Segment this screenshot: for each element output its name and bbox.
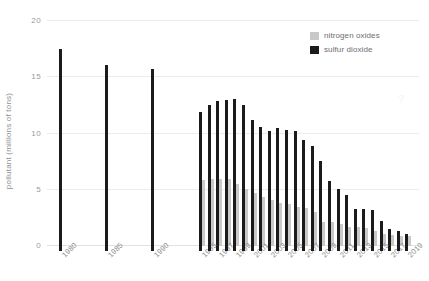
y-tick-label: 5 bbox=[36, 184, 41, 193]
bar-nitrogen-oxides[interactable] bbox=[219, 179, 222, 247]
bar-nitrogen-oxides[interactable] bbox=[374, 231, 377, 246]
bar-nitrogen-oxides[interactable] bbox=[236, 184, 239, 246]
x-tick-mark bbox=[294, 246, 297, 251]
bar-nitrogen-oxides[interactable] bbox=[245, 189, 248, 246]
bar-nitrogen-oxides[interactable] bbox=[202, 180, 205, 246]
bar-sulfur-dioxide[interactable] bbox=[151, 69, 154, 246]
legend: nitrogen oxides sulfur dioxide bbox=[310, 30, 380, 58]
x-tick-mark bbox=[242, 246, 245, 251]
bar-nitrogen-oxides[interactable] bbox=[305, 208, 308, 246]
pollutant-bar-chart: ? pollutant (millions of tons) 05101520 … bbox=[0, 0, 429, 281]
legend-item-sulfur-dioxide[interactable]: sulfur dioxide bbox=[310, 44, 380, 56]
y-tick-label: 20 bbox=[31, 16, 41, 25]
x-tick-mark bbox=[225, 246, 228, 251]
x-tick-mark bbox=[208, 246, 211, 251]
bar-nitrogen-oxides[interactable] bbox=[288, 204, 291, 246]
bar-nitrogen-oxides[interactable] bbox=[211, 179, 214, 247]
x-tick-mark bbox=[276, 246, 279, 251]
y-tick-label: 15 bbox=[31, 72, 41, 81]
bar-nitrogen-oxides[interactable] bbox=[408, 236, 411, 246]
x-tick-mark bbox=[259, 246, 262, 251]
legend-item-nitrogen-oxides[interactable]: nitrogen oxides bbox=[310, 30, 380, 42]
bar-nitrogen-oxides[interactable] bbox=[271, 200, 274, 246]
y-tick-label: 10 bbox=[31, 128, 41, 137]
x-tick-mark bbox=[362, 246, 365, 251]
x-axis: 1980198519901995199719992001200320052007… bbox=[47, 246, 419, 281]
bar-nitrogen-oxides[interactable] bbox=[391, 235, 394, 246]
legend-swatch-icon bbox=[310, 32, 319, 40]
bar-nitrogen-oxides[interactable] bbox=[254, 193, 257, 246]
bar-nitrogen-oxides[interactable] bbox=[357, 227, 360, 246]
bar-sulfur-dioxide[interactable] bbox=[105, 65, 108, 246]
y-axis-label: pollutant (millions of tons) bbox=[4, 92, 13, 188]
bar-nitrogen-oxides[interactable] bbox=[322, 222, 325, 246]
bar-nitrogen-oxides[interactable] bbox=[340, 224, 343, 247]
bar-nitrogen-oxides[interactable] bbox=[262, 197, 265, 247]
x-tick-mark bbox=[328, 246, 331, 251]
x-tick-mark bbox=[345, 246, 348, 251]
legend-label: sulfur dioxide bbox=[324, 44, 373, 56]
bar-nitrogen-oxides[interactable] bbox=[228, 179, 231, 247]
legend-label: nitrogen oxides bbox=[324, 30, 380, 42]
x-tick-mark bbox=[380, 246, 383, 251]
legend-swatch-icon bbox=[310, 46, 319, 54]
x-tick-mark bbox=[311, 246, 314, 251]
y-tick-label: 0 bbox=[36, 241, 41, 250]
bar-sulfur-dioxide[interactable] bbox=[59, 49, 62, 246]
x-tick-mark bbox=[397, 246, 400, 251]
